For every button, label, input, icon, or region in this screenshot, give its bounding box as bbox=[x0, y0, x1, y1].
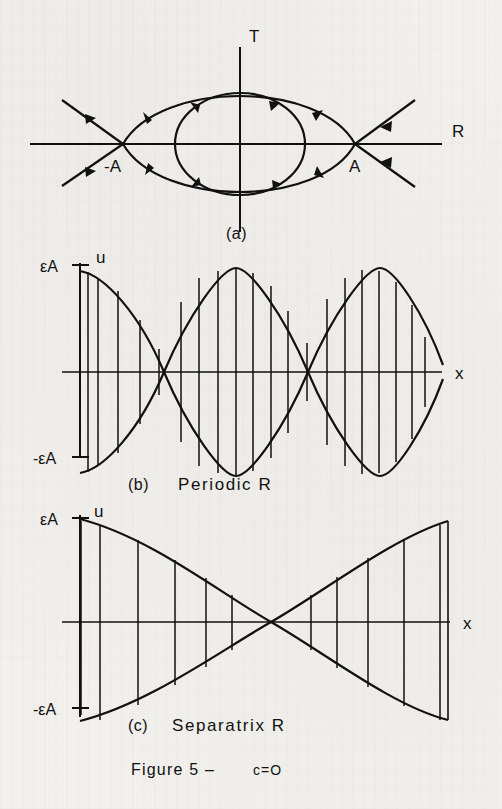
panel-a-r-axis-label: R bbox=[452, 122, 464, 141]
arrow-sep-upper-right bbox=[312, 110, 323, 121]
panel-c-label: (c) bbox=[128, 717, 148, 734]
panel-b-envelope-lower bbox=[80, 372, 443, 476]
branch-right-lower-out bbox=[355, 144, 415, 187]
panel-b-tick-label-top: εA bbox=[40, 258, 58, 275]
panel-c-title: Separatrix R bbox=[172, 716, 286, 735]
panel-a-phase-portrait: T R -A A (a) bbox=[0, 0, 502, 245]
fixed-point-label-a: A bbox=[349, 157, 361, 176]
fixed-point-label-negative-a: -A bbox=[104, 157, 122, 176]
panel-b-label: (b) bbox=[128, 476, 149, 493]
panel-c-envelope-descending bbox=[80, 519, 448, 720]
panel-b-u-axis-label: u bbox=[96, 248, 105, 267]
panel-a-label: (a) bbox=[226, 225, 247, 242]
branch-right-upper-in bbox=[355, 100, 415, 144]
panel-b-x-axis-label: x bbox=[455, 364, 464, 383]
figure-caption-condition: c=O bbox=[253, 762, 282, 778]
arrow-outer-right-upper bbox=[380, 121, 392, 132]
panel-b-title: Periodic R bbox=[178, 475, 272, 494]
panel-b-tick-label-bottom: -εA bbox=[33, 450, 56, 467]
panel-c-x-axis-label: x bbox=[463, 614, 472, 633]
panel-b-periodic-r: εA -εA u x (b) Periodic R bbox=[0, 245, 502, 495]
panel-c-envelope-ascending bbox=[80, 521, 448, 721]
figure-page: T R -A A (a) bbox=[0, 0, 502, 809]
panel-c-tick-label-bottom: -εA bbox=[33, 701, 56, 718]
panel-c-tick-label-top: εA bbox=[40, 511, 58, 528]
flow-arrows-outer bbox=[85, 114, 392, 177]
arrow-outer-left-lower bbox=[85, 167, 96, 177]
panel-a-t-axis-label: T bbox=[249, 27, 259, 46]
figure-caption-main: Figure 5 – bbox=[131, 761, 215, 778]
panel-c-separatrix-r: εA -εA u x (c) Separatrix R Figure 5 – c… bbox=[0, 505, 502, 805]
branch-left-upper-in bbox=[62, 100, 123, 144]
panel-c-u-axis-label: u bbox=[94, 505, 103, 521]
panel-b-envelope-upper bbox=[80, 268, 443, 372]
